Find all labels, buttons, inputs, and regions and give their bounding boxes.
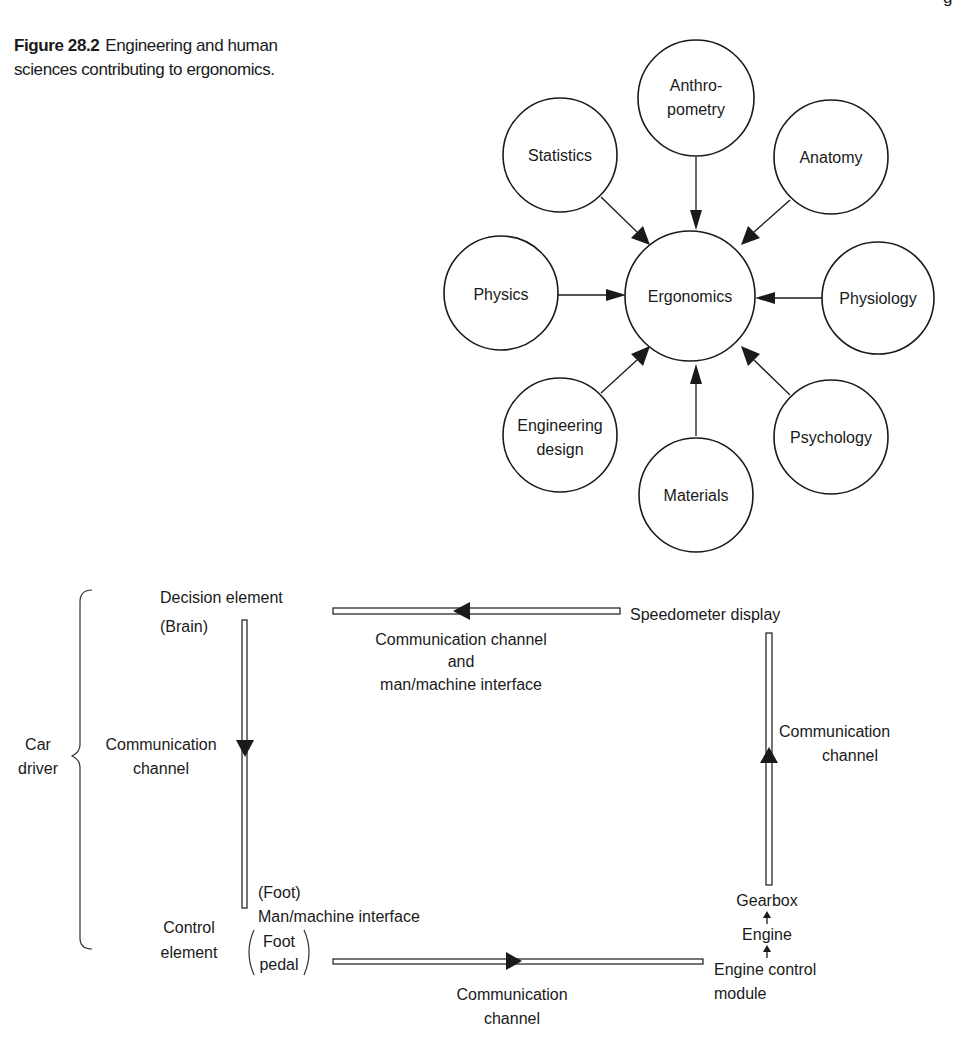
node-label: Physiology <box>839 290 916 307</box>
left-channel <box>236 620 254 908</box>
edge-psychology <box>754 360 790 395</box>
arrowhead-icon <box>755 292 775 304</box>
speedometer-display-label: Speedometer display <box>630 606 780 623</box>
control-element-label: Control <box>163 919 215 936</box>
top-channel-label: Communication channel <box>375 631 547 648</box>
left-channel-label: channel <box>133 760 189 777</box>
foot-interface-label: Man/machine interface <box>258 908 420 925</box>
foot-pedal-label: Foot <box>263 933 296 950</box>
node-label: Anthro- <box>670 77 722 94</box>
arrow-engine-to-gearbox <box>763 911 771 924</box>
node-anthropometry: Anthro- pometry <box>638 40 754 156</box>
top-channel-label: and <box>448 653 475 670</box>
bottom-channel-label: Communication <box>456 986 567 1003</box>
arrowhead-down-icon <box>236 740 254 757</box>
left-paren <box>249 930 254 975</box>
node-materials: Materials <box>639 438 753 552</box>
engine-control-module-label: Engine control <box>714 961 816 978</box>
node-anatomy: Anatomy <box>774 100 888 214</box>
figure-canvas: Ergonomics Anthro- pometry Statistics An… <box>0 0 955 1037</box>
ergonomics-diagram: Ergonomics Anthro- pometry Statistics An… <box>444 40 934 552</box>
foot-interface-label: (Foot) <box>258 884 301 901</box>
node-label: Anatomy <box>799 149 862 166</box>
node-label: Materials <box>664 487 729 504</box>
car-driver-label: driver <box>18 760 59 777</box>
right-paren <box>304 930 309 975</box>
arrowhead-right-icon <box>506 952 522 970</box>
node-physics: Physics <box>444 236 558 350</box>
left-channel-label: Communication <box>105 736 216 753</box>
right-channel-label: Communication <box>779 723 890 740</box>
arrow-ecm-to-engine <box>763 945 771 958</box>
node-label: Physics <box>473 286 528 303</box>
node-physiology: Physiology <box>822 242 934 354</box>
node-psychology: Psychology <box>774 380 888 494</box>
top-channel <box>333 602 620 620</box>
arrowhead-left-icon <box>453 602 470 620</box>
node-ergonomics: Ergonomics <box>625 231 755 361</box>
arrowhead-icon <box>690 364 702 384</box>
arrowhead-icon <box>606 289 626 301</box>
right-channel <box>760 633 778 885</box>
decision-element-label: (Brain) <box>160 618 208 635</box>
arrowhead-icon <box>690 210 702 230</box>
bottom-channel-label: channel <box>484 1010 540 1027</box>
gearbox-label: Gearbox <box>736 892 797 909</box>
arrowhead-up-icon <box>763 945 771 952</box>
engine-label: Engine <box>742 926 792 943</box>
edge-engineering-design <box>601 360 637 393</box>
arrowhead-up-icon <box>760 747 778 763</box>
foot-pedal-label: pedal <box>259 956 298 973</box>
node-label: Psychology <box>790 429 872 446</box>
decision-element-label: Decision element <box>160 589 283 606</box>
node-label: Ergonomics <box>648 288 732 305</box>
arrowhead-up-icon <box>763 911 771 918</box>
bottom-channel <box>333 952 703 970</box>
right-channel-label: channel <box>822 747 878 764</box>
node-engineering-design: Engineering design <box>503 378 617 492</box>
node-label: pometry <box>667 101 725 118</box>
node-statistics: Statistics <box>503 98 617 212</box>
foot-pedal-group: Foot pedal <box>249 930 309 975</box>
control-loop-diagram: Car driver Decision element (Brain) Comm… <box>18 589 890 1027</box>
edge-statistics <box>601 197 637 232</box>
edge-anatomy <box>754 200 790 232</box>
node-label: design <box>536 441 583 458</box>
car-driver-label: Car <box>25 736 51 753</box>
engine-control-module-label: module <box>714 985 767 1002</box>
top-channel-label: man/machine interface <box>380 676 542 693</box>
car-driver-brace <box>72 590 92 949</box>
node-label: Engineering <box>517 417 602 434</box>
control-element-label: element <box>161 944 218 961</box>
node-label: Statistics <box>528 147 592 164</box>
